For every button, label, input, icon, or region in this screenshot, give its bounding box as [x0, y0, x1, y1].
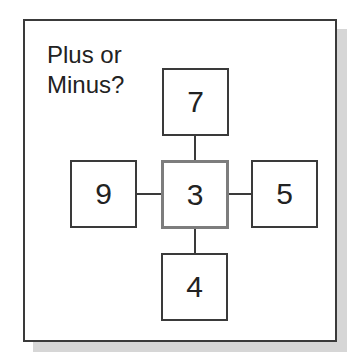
box-top: 7 — [162, 68, 229, 136]
connector-left — [137, 193, 161, 195]
puzzle-title: Plus or Minus? — [47, 40, 124, 100]
box-left: 9 — [70, 160, 137, 228]
connector-top — [194, 136, 196, 160]
title-line-1: Plus or — [47, 40, 124, 70]
title-line-2: Minus? — [47, 70, 124, 100]
box-right: 5 — [251, 160, 318, 228]
connector-right — [229, 193, 251, 195]
box-center: 3 — [161, 160, 229, 229]
connector-bottom — [194, 229, 196, 253]
box-bottom: 4 — [161, 253, 228, 321]
